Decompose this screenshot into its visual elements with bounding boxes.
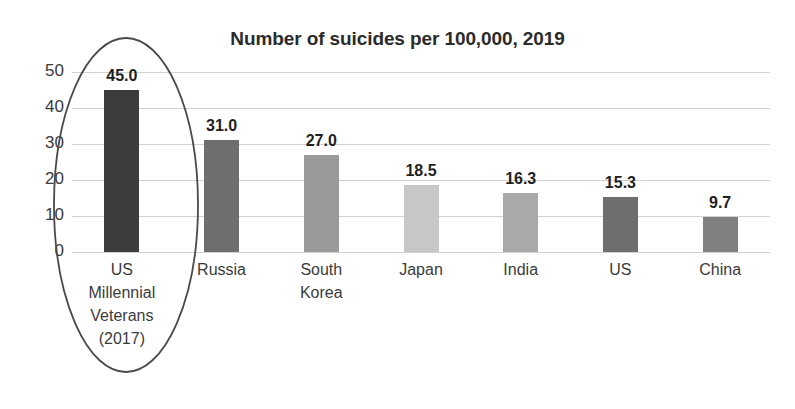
gridline <box>72 108 770 109</box>
y-axis-tick-label: 30 <box>18 133 64 153</box>
bar-value-label: 16.3 <box>481 170 561 188</box>
bar-value-label: 45.0 <box>82 67 162 85</box>
x-axis-labels: USMillennialVeterans(2017)RussiaSouthKor… <box>72 258 770 378</box>
bar <box>603 197 638 252</box>
y-axis: 01020304050 <box>8 72 64 252</box>
bar-value-label: 15.3 <box>580 174 660 192</box>
gridline <box>72 72 770 73</box>
bar-value-label: 27.0 <box>281 132 361 150</box>
x-axis-category-label: China <box>660 258 780 281</box>
x-axis-category-label-line: China <box>660 258 780 281</box>
plot-area: 45.031.027.018.516.315.39.7 <box>72 72 770 252</box>
x-axis-category-label-line: Veterans <box>62 304 182 327</box>
x-axis-category-label-line: Millennial <box>62 281 182 304</box>
y-axis-tick-label: 20 <box>18 169 64 189</box>
bar-value-label: 31.0 <box>182 117 262 135</box>
chart-title: Number of suicides per 100,000, 2019 <box>0 28 795 50</box>
bar <box>304 155 339 252</box>
bar <box>204 140 239 252</box>
bar <box>404 185 439 252</box>
bar <box>104 90 139 252</box>
bar-value-label: 9.7 <box>680 194 760 212</box>
gridline <box>72 144 770 145</box>
bar <box>503 193 538 252</box>
gridline <box>72 252 770 253</box>
y-axis-tick-label: 40 <box>18 97 64 117</box>
bar-chart: Number of suicides per 100,000, 2019 010… <box>0 0 795 409</box>
y-axis-tick-label: 0 <box>18 241 64 261</box>
y-axis-tick-label: 10 <box>18 205 64 225</box>
bar-value-label: 18.5 <box>381 162 461 180</box>
x-axis-category-label-line: (2017) <box>62 327 182 350</box>
x-axis-category-label-line: Korea <box>261 281 381 304</box>
bar <box>703 217 738 252</box>
y-axis-tick-label: 50 <box>18 61 64 81</box>
